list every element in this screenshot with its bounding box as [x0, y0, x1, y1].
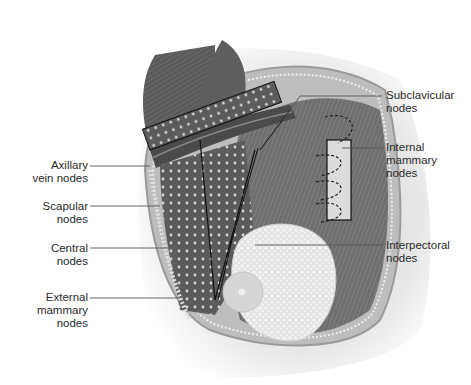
- internal-mammary-box: [327, 140, 351, 220]
- label-interpectoral-nodes: Interpectoral nodes: [386, 239, 471, 265]
- label-central-nodes: Central nodes: [18, 242, 88, 268]
- nipple: [239, 289, 246, 296]
- label-axillary-vein-nodes: Axillary vein nodes: [18, 159, 88, 185]
- label-subclavicular-nodes: Subclavicular nodes: [386, 89, 471, 115]
- label-scapular-nodes: Scapular nodes: [18, 200, 88, 226]
- label-external-mammary-nodes: External mammary nodes: [18, 291, 88, 330]
- label-internal-mammary-nodes: Internal mammary nodes: [386, 141, 471, 180]
